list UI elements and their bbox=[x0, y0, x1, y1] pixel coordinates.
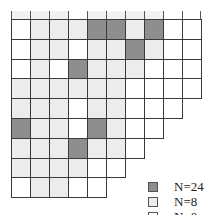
grid-cell bbox=[68, 78, 88, 99]
grid-cell bbox=[30, 78, 50, 99]
grid-cell bbox=[106, 59, 126, 80]
grid-cell bbox=[87, 39, 107, 60]
grid-cell bbox=[11, 78, 31, 99]
grid-cell bbox=[87, 118, 107, 139]
grid-cell bbox=[68, 138, 88, 159]
grid-cell bbox=[30, 177, 50, 198]
legend-swatch-light bbox=[148, 197, 158, 207]
legend-label: N=0 bbox=[174, 209, 197, 215]
grid-cell bbox=[163, 19, 183, 40]
legend-label: N=24 bbox=[174, 179, 204, 195]
grid-cell bbox=[144, 118, 164, 139]
grid-cell bbox=[30, 98, 50, 119]
grid-cell bbox=[125, 118, 145, 139]
grid-cell bbox=[68, 19, 88, 40]
grid-cell bbox=[68, 59, 88, 80]
grid-cell bbox=[106, 138, 126, 159]
grid-cell bbox=[125, 138, 145, 159]
grid-cell bbox=[30, 39, 50, 60]
grid-cell bbox=[182, 19, 202, 40]
grid-cell bbox=[68, 177, 88, 198]
grid-cell bbox=[49, 59, 69, 80]
grid-cell bbox=[106, 19, 126, 40]
legend-label: N=8 bbox=[174, 194, 197, 210]
grid-cell bbox=[106, 98, 126, 119]
grid-cell bbox=[30, 19, 50, 40]
grid-cell bbox=[49, 118, 69, 139]
grid-cell bbox=[163, 98, 183, 119]
grid-cell bbox=[163, 59, 183, 80]
legend-swatch-dark bbox=[148, 182, 158, 192]
grid-cell bbox=[49, 138, 69, 159]
grid-cell bbox=[49, 98, 69, 119]
grid-cell bbox=[49, 78, 69, 99]
grid-cell bbox=[144, 98, 164, 119]
grid-cell bbox=[87, 98, 107, 119]
grid-cell bbox=[11, 138, 31, 159]
legend-swatch-white bbox=[148, 212, 158, 215]
grid-cell bbox=[11, 39, 31, 60]
grid-cell bbox=[68, 39, 88, 60]
grid-cell bbox=[11, 19, 31, 40]
grid-cell bbox=[30, 118, 50, 139]
grid-cell bbox=[87, 138, 107, 159]
grid-cell bbox=[30, 59, 50, 80]
grid-cell bbox=[144, 39, 164, 60]
grid-cell bbox=[68, 118, 88, 139]
grid-cell bbox=[182, 78, 202, 99]
grid-cell bbox=[11, 177, 31, 198]
grid-cell bbox=[30, 138, 50, 159]
grid-cell bbox=[144, 78, 164, 99]
grid-cell bbox=[49, 177, 69, 198]
grid-cell bbox=[125, 98, 145, 119]
grid-cell bbox=[68, 158, 88, 179]
grid-cell bbox=[182, 39, 202, 60]
grid-cell bbox=[49, 158, 69, 179]
grid-cell bbox=[87, 177, 107, 198]
grid-cell bbox=[68, 98, 88, 119]
grid-cell bbox=[30, 158, 50, 179]
grid-cell bbox=[87, 59, 107, 80]
grid-cell bbox=[106, 39, 126, 60]
grid-cell bbox=[49, 39, 69, 60]
grid-cell bbox=[163, 78, 183, 99]
grid-cell bbox=[11, 158, 31, 179]
grid-cell bbox=[11, 59, 31, 80]
grid-cell bbox=[144, 59, 164, 80]
grid-cell bbox=[125, 78, 145, 99]
grid-cell bbox=[87, 78, 107, 99]
grid-cell bbox=[163, 39, 183, 60]
grid-cell bbox=[182, 59, 202, 80]
grid-cell bbox=[125, 19, 145, 40]
grid-cell bbox=[87, 19, 107, 40]
grid-cell bbox=[106, 158, 126, 179]
grid-cell bbox=[125, 39, 145, 60]
grid-cell bbox=[11, 98, 31, 119]
grid-cell bbox=[106, 118, 126, 139]
grid-cell bbox=[144, 19, 164, 40]
grid-cell bbox=[87, 158, 107, 179]
grid-cell bbox=[125, 59, 145, 80]
grid-cell bbox=[106, 78, 126, 99]
grid-cell bbox=[49, 19, 69, 40]
grid-cell bbox=[11, 118, 31, 139]
